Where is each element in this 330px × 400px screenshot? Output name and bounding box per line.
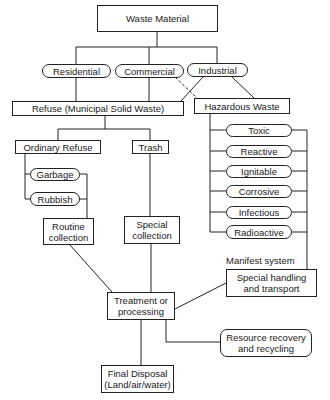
toxic-oval: Toxic bbox=[226, 124, 292, 137]
commercial-oval: Commercial bbox=[115, 64, 184, 78]
reactive-oval: Reactive bbox=[226, 145, 292, 158]
hazardous-waste-box: Hazardous Waste bbox=[194, 98, 290, 114]
industrial-oval: Industrial bbox=[187, 63, 248, 77]
treatment-box: Treatment or processing bbox=[107, 292, 175, 320]
radioactive-oval: Radioactive bbox=[226, 225, 292, 239]
special-handling-box: Special handling and transport bbox=[226, 269, 317, 297]
trash-box: Trash bbox=[132, 140, 169, 154]
residential-oval: Residential bbox=[42, 64, 111, 78]
waste-material-box: Waste Material bbox=[97, 5, 218, 32]
manifest-system-label: Manifest system bbox=[226, 255, 295, 266]
final-disposal-box: Final Disposal (Land/air/water) bbox=[101, 365, 174, 393]
routine-collection-box: Routine collection bbox=[43, 218, 94, 245]
ignitable-oval: Ignitable bbox=[226, 165, 292, 178]
infectious-oval: Infectious bbox=[226, 206, 292, 219]
corrosive-oval: Corrosive bbox=[226, 185, 292, 198]
resource-recovery-box: Resource recovery and recycling bbox=[220, 329, 312, 357]
special-collection-box: Special collection bbox=[124, 216, 180, 244]
ordinary-refuse-box: Ordinary Refuse bbox=[15, 140, 101, 154]
garbage-oval: Garbage bbox=[30, 168, 80, 181]
rubbish-oval: Rubbish bbox=[30, 192, 80, 206]
refuse-box: Refuse (Municipal Solid Waste) bbox=[12, 101, 184, 116]
